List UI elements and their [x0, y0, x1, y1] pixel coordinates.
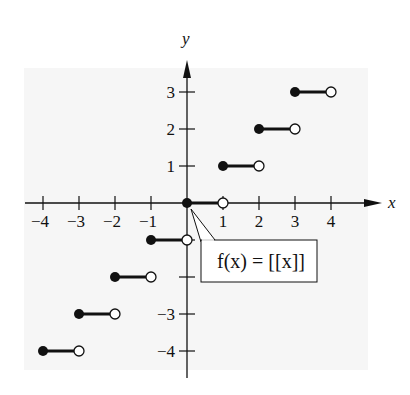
function-label-text: f(x) = [[x]]: [217, 250, 305, 273]
x-tick-label: −1: [139, 212, 157, 231]
closed-endpoint-dot: [182, 198, 192, 208]
closed-endpoint-dot: [74, 309, 84, 319]
closed-endpoint-dot: [218, 161, 228, 171]
x-tick-label: −2: [103, 212, 121, 231]
x-tick-label: 4: [327, 212, 336, 231]
y-tick-label: −4: [157, 342, 176, 361]
closed-endpoint-dot: [254, 124, 264, 134]
open-endpoint-circle: [290, 124, 300, 134]
open-endpoint-circle: [182, 235, 192, 245]
open-endpoint-circle: [254, 161, 264, 171]
y-tick-label: 2: [167, 120, 176, 139]
y-tick-label: 3: [167, 83, 176, 102]
y-tick-label: −3: [157, 305, 175, 324]
x-tick-label: 3: [291, 212, 300, 231]
x-tick-label: −4: [31, 212, 50, 231]
open-endpoint-circle: [110, 309, 120, 319]
x-axis-arrow-icon: [364, 199, 382, 207]
closed-endpoint-dot: [146, 235, 156, 245]
closed-endpoint-dot: [110, 272, 120, 282]
step-function-chart: xy −4−3−2−11234−4−3123 f(x) = [[x]]: [0, 0, 410, 395]
x-tick-label: 1: [219, 212, 228, 231]
open-endpoint-circle: [326, 87, 336, 97]
y-axis-label: y: [180, 29, 190, 48]
x-axis-label: x: [387, 193, 396, 212]
closed-endpoint-dot: [38, 346, 48, 356]
x-tick-label: 2: [255, 212, 264, 231]
open-endpoint-circle: [74, 346, 84, 356]
closed-endpoint-dot: [290, 87, 300, 97]
y-tick-label: 1: [167, 157, 176, 176]
open-endpoint-circle: [146, 272, 156, 282]
open-endpoint-circle: [218, 198, 228, 208]
x-tick-label: −3: [67, 212, 85, 231]
